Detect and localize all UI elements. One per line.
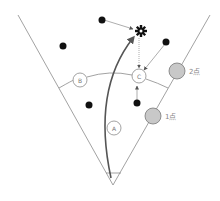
- infield-arc: [59, 80, 74, 88]
- fielder-dot: [99, 17, 106, 24]
- dot-to-target-arrow: [104, 20, 133, 29]
- player-c: C: [132, 69, 146, 83]
- right-foul-line: [113, 15, 210, 185]
- one-point-label: 1点: [165, 113, 176, 121]
- player-a: A: [107, 121, 121, 135]
- infield-arc-right: [146, 79, 168, 88]
- fielder-dot: [60, 43, 67, 50]
- scoring-zone-two-points: 2点: [169, 63, 200, 79]
- field-diagram: B C A 2点 1点: [0, 0, 220, 201]
- fielder-dot: [86, 102, 93, 109]
- infield-arc-mid: [87, 73, 132, 77]
- dot-to-c-arrow: [144, 44, 165, 70]
- player-b: B: [73, 73, 87, 87]
- player-b-label: B: [78, 77, 82, 84]
- fielder-dot: [134, 100, 141, 107]
- left-foul-line: [18, 15, 113, 185]
- player-c-label: C: [137, 73, 141, 80]
- fielder-dot: [163, 39, 170, 46]
- scoring-zone-one-point: 1点: [145, 108, 176, 124]
- gear-icon: [135, 25, 147, 37]
- two-points-label: 2点: [189, 68, 200, 76]
